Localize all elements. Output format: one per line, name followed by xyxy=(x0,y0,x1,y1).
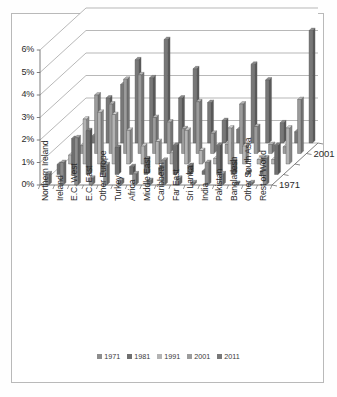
bar-front-face xyxy=(280,123,283,143)
bar-front-face xyxy=(127,130,130,164)
bar-side-face xyxy=(278,143,281,175)
x-axis-category-label: Middle East xyxy=(142,157,152,201)
bar-side-face xyxy=(269,78,272,143)
bar-front-face xyxy=(138,75,141,154)
x-axis-category-label: Rest of World xyxy=(258,150,268,201)
chart-plot-area xyxy=(0,0,337,397)
legend-label: 1971 xyxy=(104,352,120,361)
x-axis-category-label: E.C. West xyxy=(69,163,79,201)
bar-side-face xyxy=(214,131,217,154)
bar-front-face xyxy=(286,128,289,164)
bar-side-face xyxy=(159,139,162,164)
bar-front-face xyxy=(199,151,202,165)
bar-side-face xyxy=(199,99,202,153)
bar xyxy=(196,99,202,153)
y-axis-tick-label: 2% xyxy=(2,134,34,144)
bar xyxy=(286,126,292,164)
x-axis-category-label: Pakistan xyxy=(214,169,224,201)
y-axis-tick-label: 6% xyxy=(2,44,34,54)
x-axis-category-label: Turkey xyxy=(113,176,123,201)
legend-swatch-icon xyxy=(187,354,192,359)
legend-label: 2001 xyxy=(194,352,210,361)
depth-axis-tick-label: 1971 xyxy=(279,179,300,190)
chart-legend: 19711981199120012011 xyxy=(0,352,337,361)
y-axis-tick-label: 5% xyxy=(2,67,34,77)
bar xyxy=(222,118,228,143)
bar-side-face xyxy=(170,120,173,154)
legend-item-1991[interactable]: 1991 xyxy=(157,352,180,361)
bar-front-face xyxy=(254,127,257,154)
bar-front-face xyxy=(167,122,170,154)
x-axis-category-label: Other Europe xyxy=(98,151,108,201)
bar-front-face xyxy=(130,167,133,175)
figure-canvas: 0%1%2%3%4%5%6% 20011971 Northern Ireland… xyxy=(0,0,337,397)
bar-side-face xyxy=(130,128,133,164)
bar-front-face xyxy=(211,133,214,153)
bar-front-face xyxy=(222,121,225,144)
bar xyxy=(269,142,275,153)
bar xyxy=(156,139,162,164)
bar-side-face xyxy=(283,120,286,143)
bar-front-face xyxy=(196,102,199,154)
bar xyxy=(275,143,281,175)
depth-axis-tick xyxy=(272,185,277,186)
y-axis-tick-label: 3% xyxy=(2,112,34,122)
legend-label: 1991 xyxy=(164,352,180,361)
bar xyxy=(280,120,286,143)
bar xyxy=(167,120,173,154)
depth-axis-tick xyxy=(318,143,323,144)
y-axis-tick-label: 0% xyxy=(2,179,34,189)
bar-side-face xyxy=(208,160,211,185)
bar-front-face xyxy=(275,145,278,174)
bar-side-face xyxy=(301,97,304,153)
bar xyxy=(205,160,211,185)
bar-front-face xyxy=(185,130,188,164)
bar-side-face xyxy=(118,145,121,174)
bar-side-face xyxy=(202,148,205,164)
bar xyxy=(127,128,133,164)
y-axis-tick-label: 4% xyxy=(2,89,34,99)
x-axis-category-label: Africa xyxy=(127,180,137,201)
legend-item-2011[interactable]: 2011 xyxy=(217,352,239,361)
x-axis-category-label: Northern Ireland xyxy=(40,141,50,202)
x-axis-tick xyxy=(270,185,272,189)
bar-side-face xyxy=(188,128,191,164)
bar-front-face xyxy=(298,100,301,154)
x-axis-category-label: Caribbean xyxy=(156,162,166,201)
x-axis-category-label: Bangladesh xyxy=(229,157,239,201)
bar xyxy=(266,78,272,143)
legend-swatch-icon xyxy=(217,354,222,359)
x-axis-category-label: E.C. East xyxy=(84,166,94,201)
bar xyxy=(115,145,121,174)
legend-label: 1981 xyxy=(134,352,150,361)
x-axis-category-label: India xyxy=(200,183,210,201)
x-axis-category-label: Other South Asia xyxy=(243,138,253,201)
bar xyxy=(309,28,315,143)
bar-side-face xyxy=(312,28,315,143)
legend-swatch-icon xyxy=(127,354,132,359)
legend-swatch-icon xyxy=(97,354,102,359)
depth-axis-tick xyxy=(295,164,300,165)
bar-side-face xyxy=(141,72,144,153)
legend-item-1981[interactable]: 1981 xyxy=(127,352,150,361)
depth-axis-tick xyxy=(284,175,289,176)
x-axis-category-label: Far East xyxy=(171,169,181,201)
legend-item-1971[interactable]: 1971 xyxy=(97,352,120,361)
bar-side-face xyxy=(225,118,228,143)
legend-item-2001[interactable]: 2001 xyxy=(187,352,210,361)
x-axis-category-label: Ireland xyxy=(55,175,65,201)
bar-front-face xyxy=(269,145,272,154)
bar xyxy=(298,97,304,153)
bar xyxy=(185,128,191,164)
bar-front-face xyxy=(156,142,159,165)
bar xyxy=(199,148,205,164)
bar xyxy=(211,131,217,154)
bar-front-face xyxy=(309,31,312,144)
bar-front-face xyxy=(205,163,208,186)
legend-swatch-icon xyxy=(157,354,162,359)
bar-side-face xyxy=(289,126,292,164)
depth-axis-tick-label: 2001 xyxy=(314,148,335,159)
bar-front-face xyxy=(115,148,118,175)
y-axis-tick-label: 1% xyxy=(2,157,34,167)
bar xyxy=(138,72,144,153)
